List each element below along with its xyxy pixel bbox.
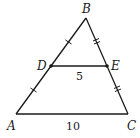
- tick-da: [31, 88, 37, 92]
- length-de: 5: [76, 70, 83, 83]
- label-d: D: [36, 59, 47, 73]
- label-e: E: [110, 59, 120, 73]
- tick-bd: [66, 40, 72, 44]
- label-b: B: [81, 2, 91, 16]
- point-e: [105, 64, 109, 68]
- triangle-diagram: B D E A C 5 10: [0, 0, 140, 138]
- point-d: [49, 64, 53, 68]
- length-ac: 10: [66, 120, 80, 133]
- label-a: A: [6, 119, 16, 133]
- label-c: C: [127, 119, 136, 133]
